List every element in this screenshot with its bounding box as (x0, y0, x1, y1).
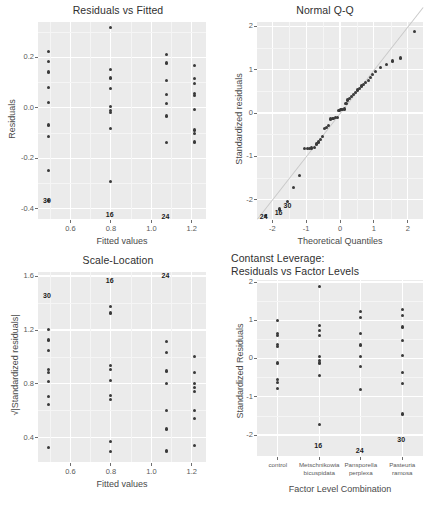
x-tick-mark (110, 463, 111, 466)
data-point (165, 409, 168, 412)
y-tick-label: 2 (231, 277, 253, 286)
x-tick-mark (191, 463, 192, 466)
y-tick-mark (254, 113, 257, 114)
data-point (165, 114, 168, 117)
panel-title: Residuals vs Fitted (28, 4, 208, 17)
gridline-x-minor (323, 22, 324, 219)
panel-scale-location: Scale-Location √|Standardized residuals|… (0, 250, 215, 505)
gridline-x (407, 22, 408, 219)
gridline-x-minor (90, 272, 91, 462)
x-axis-label: Theoretical Quantiles (257, 236, 423, 246)
gridline-y-minor (38, 357, 206, 358)
data-point (318, 361, 321, 364)
data-point (391, 59, 394, 62)
gridline-y-minor (257, 91, 423, 92)
gridline-x (319, 280, 320, 456)
x-tick-mark (272, 220, 273, 223)
data-point (47, 395, 50, 398)
y-tick-mark (254, 69, 257, 70)
x-tick-mark (407, 220, 408, 223)
y-tick-mark (254, 358, 257, 359)
data-point (47, 123, 50, 126)
data-point (399, 56, 402, 59)
gridline-y-minor (38, 133, 206, 134)
gridline-x-minor (131, 272, 132, 462)
gridline-y-minor (257, 339, 423, 340)
x-tick-mark (151, 463, 152, 466)
y-tick-label: 0 (231, 353, 253, 362)
gridline-x-minor (50, 272, 51, 462)
data-point (401, 354, 404, 357)
data-point (165, 61, 168, 64)
y-tick-mark (35, 437, 38, 438)
data-point (165, 369, 168, 372)
x-tick-mark (277, 457, 278, 460)
x-axis-label: Factor Level Combination (257, 484, 423, 494)
data-point (369, 76, 372, 79)
y-tick-label: -2 (231, 430, 253, 439)
panel-title: Scale-Location (28, 254, 208, 267)
gridline-y-minor (257, 48, 423, 49)
gridline-x-minor (289, 22, 290, 219)
data-point (401, 371, 404, 374)
x-tick-label: -2 (258, 224, 286, 233)
gridline-y-minor (38, 303, 206, 304)
y-tick-mark (254, 320, 257, 321)
gridline-x (373, 22, 374, 219)
x-tick-mark (110, 220, 111, 223)
gridline-y (257, 281, 423, 282)
gridline-x-minor (90, 22, 91, 219)
outlier-label: 30 (284, 202, 292, 209)
gridline-y-minor (257, 178, 423, 179)
y-tick-mark (254, 26, 257, 27)
gridline-y-minor (38, 183, 206, 184)
data-point (318, 334, 321, 337)
gridline-x-minor (131, 22, 132, 219)
plot-area (38, 22, 206, 219)
gridline-y-minor (257, 134, 423, 135)
gridline-x (70, 22, 71, 219)
gridline-y (38, 437, 206, 438)
gridline-y-minor (38, 82, 206, 83)
y-tick-label: -1 (231, 392, 253, 401)
data-point (47, 169, 50, 172)
panel-title: Normal Q-Q (235, 4, 415, 17)
data-point (336, 116, 339, 119)
gridline-y-minor (38, 32, 206, 33)
x-tick-label-category: Pasteuriaramosa (375, 461, 429, 477)
y-tick-mark (254, 396, 257, 397)
panel-normal-qq: Normal Q-Q Standardized residuals Theore… (215, 0, 431, 250)
gridline-y-minor (257, 416, 423, 417)
gridline-x (151, 272, 152, 462)
gridline-y (257, 358, 423, 359)
y-axis-label: Standardized Residuals (235, 316, 245, 426)
y-tick-mark (35, 276, 38, 277)
diagnostic-plot-grid: Residuals vs Fitted Residuals Fitted val… (0, 0, 431, 505)
data-point (165, 382, 168, 385)
x-tick-mark (360, 457, 361, 460)
y-tick-mark (35, 330, 38, 331)
outlier-label: 16 (106, 211, 114, 218)
gridline-x (110, 22, 111, 219)
data-point (401, 314, 404, 317)
gridline-y-minor (257, 377, 423, 378)
y-tick-label: 0.8 (12, 379, 34, 388)
gridline-x-minor (171, 22, 172, 219)
outlier-label: 24 (162, 272, 170, 279)
outlier-label: 16 (275, 209, 283, 216)
data-point (401, 382, 404, 385)
y-tick-mark (254, 435, 257, 436)
plot-area (257, 280, 423, 456)
data-point (165, 53, 168, 56)
x-axis-label: Fitted values (38, 479, 206, 489)
gridline-y-minor (38, 410, 206, 411)
data-point (47, 338, 50, 341)
x-tick-label: 1.2 (178, 224, 206, 233)
outlier-label: 24 (356, 447, 364, 454)
x-tick-mark (340, 220, 341, 223)
gridline-y (38, 275, 206, 276)
y-tick-label: 0.2 (12, 52, 34, 61)
data-point (292, 186, 295, 189)
x-tick-label: 0 (326, 224, 354, 233)
gridline-y (38, 208, 206, 209)
